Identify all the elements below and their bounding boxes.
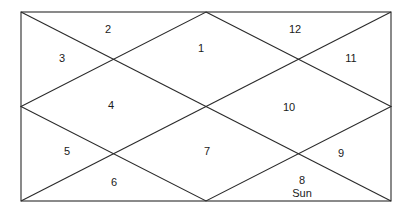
house-number-4: 4 [108,100,114,111]
house-number-9: 9 [338,148,344,159]
house-number-10: 10 [283,102,295,113]
house-number-5: 5 [64,146,70,157]
house-number-6: 6 [111,177,117,188]
house-number-3: 3 [59,53,65,64]
house-number-1: 1 [198,43,204,54]
house-number-7: 7 [204,146,210,157]
house-number-8: 8 [299,175,305,186]
planet-label-sun: Sun [292,188,312,199]
house-number-2: 2 [105,24,111,35]
horoscope-chart [0,0,412,211]
house-number-11: 11 [345,53,356,64]
house-number-12: 12 [289,24,301,35]
